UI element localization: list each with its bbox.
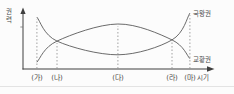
series-curve-0 xyxy=(37,13,190,55)
y-axis-arrow-icon xyxy=(20,8,25,15)
x-tick-label: (나) xyxy=(51,73,63,82)
chart-canvas: (가)(나)(다)(라)(마)국왕권교황권 xyxy=(0,0,234,94)
x-tick-label: (다) xyxy=(112,73,124,82)
series-curves xyxy=(37,13,190,62)
guide-lines xyxy=(37,15,190,68)
x-tick-label: (라) xyxy=(166,73,178,82)
series-label-0: 국왕권 xyxy=(193,9,211,18)
chart-text-labels: (가)(나)(다)(라)(마)국왕권교황권 xyxy=(31,9,211,82)
x-tick-label: (마) xyxy=(184,73,196,82)
papal-vs-royal-power-chart: 권력 시기 (가)(나)(다)(라)(마)국왕권교황권 xyxy=(0,0,234,94)
x-tick-label: (가) xyxy=(31,73,43,82)
series-label-1: 교황권 xyxy=(193,55,211,64)
bottom-divider xyxy=(0,86,234,87)
x-axis-arrow-icon xyxy=(207,66,215,72)
axes xyxy=(20,8,214,72)
